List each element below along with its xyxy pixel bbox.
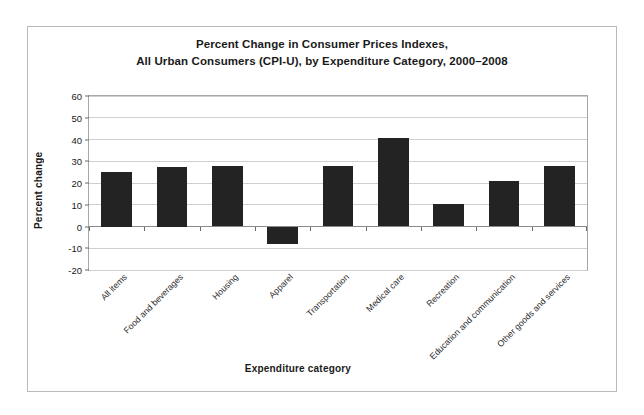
- x-category-label-text: Medical care: [364, 272, 406, 314]
- x-category-label-text: Housing: [210, 272, 240, 302]
- x-category-label-text: Apparel: [267, 272, 295, 300]
- chart-title-line-1: Percent Change in Consumer Prices Indexe…: [27, 36, 617, 53]
- x-tick-mark: [586, 227, 587, 231]
- bar[interactable]: [433, 204, 464, 227]
- bar[interactable]: [323, 166, 354, 227]
- plot-area: 6050403020100-10-20: [88, 95, 588, 271]
- x-tick-mark: [476, 227, 477, 231]
- x-tick-mark: [532, 227, 533, 231]
- bar[interactable]: [212, 166, 243, 227]
- chart-title-line-2: All Urban Consumers (CPI-U), by Expendit…: [27, 53, 617, 70]
- y-tick-label--20: -20: [68, 265, 82, 276]
- x-category-label-text: Recreation: [425, 272, 462, 309]
- x-axis-title: Expenditure category: [88, 363, 508, 374]
- bar-slot: [310, 96, 365, 270]
- x-tick-mark: [421, 227, 422, 231]
- y-tick-label-0: 0: [77, 221, 82, 232]
- y-tick-label-40: 40: [71, 134, 82, 145]
- bars-layer: [89, 96, 587, 270]
- x-tick-mark: [200, 227, 201, 231]
- y-tick-label-10: 10: [71, 199, 82, 210]
- y-tick-label-30: 30: [71, 156, 82, 167]
- x-tick-mark: [255, 227, 256, 231]
- y-tick-label--10: -10: [68, 243, 82, 254]
- x-category-label-text: Transportation: [304, 272, 350, 318]
- x-category-label-text: All items: [99, 272, 129, 302]
- bar[interactable]: [267, 227, 298, 244]
- chart-title: Percent Change in Consumer Prices Indexe…: [27, 36, 617, 70]
- bar-slot: [255, 96, 310, 270]
- bar[interactable]: [157, 167, 188, 227]
- y-axis-title: Percent change: [33, 130, 47, 250]
- y-tick-label-60: 60: [71, 91, 82, 102]
- bar[interactable]: [378, 138, 409, 226]
- y-tick-label-50: 50: [71, 112, 82, 123]
- bar-slot: [89, 96, 144, 270]
- x-tick-mark: [89, 227, 90, 231]
- bar-slot: [144, 96, 199, 270]
- x-tick-mark: [366, 227, 367, 231]
- bar[interactable]: [101, 172, 132, 226]
- x-category-label-text: Food and beverages: [121, 272, 184, 335]
- bar[interactable]: [489, 181, 520, 227]
- x-tick-mark: [144, 227, 145, 231]
- x-tick-mark: [310, 227, 311, 231]
- y-tick-label-20: 20: [71, 178, 82, 189]
- x-axis-category-labels: All itemsFood and beveragesHousingAppare…: [88, 272, 588, 364]
